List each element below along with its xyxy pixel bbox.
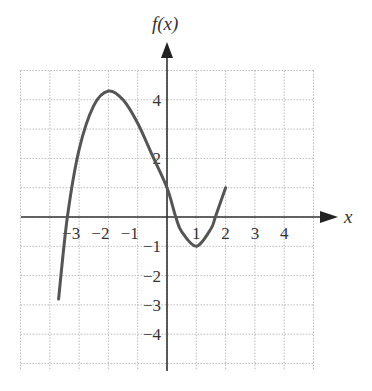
y-tick-label: −2 [143,267,161,286]
y-tick-label: −1 [143,237,161,256]
y-axis-label: f(x) [152,13,178,35]
y-tick-label: 4 [153,91,162,110]
x-tick-label: 3 [251,224,260,243]
x-tick-label: 4 [280,224,289,243]
x-axis-arrow-icon [320,211,338,223]
y-axis-arrow-icon [161,42,173,58]
x-tick-label: −1 [121,224,139,243]
y-tick-label: −3 [143,296,161,315]
x-tick-label: 1 [192,224,201,243]
x-axis-label: x [343,206,353,227]
y-axis [161,42,173,371]
y-tick-label: −4 [143,325,162,344]
x-tick-label: 2 [221,224,230,243]
x-tick-label: −2 [91,224,109,243]
function-graph: x f(x) −3−2−1123442−1−2−3−4 [0,0,372,391]
